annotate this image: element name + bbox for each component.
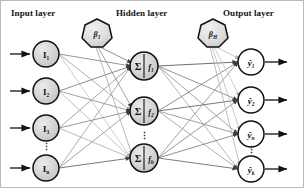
node-input-2[interactable]: I2: [33, 78, 59, 104]
node-hidden-2-sum: Σ: [135, 106, 142, 117]
node-input-3-sub: 3: [46, 129, 49, 135]
node-input-n-sub: n: [46, 169, 49, 175]
output-ellipsis-icon: ⋮: [247, 145, 256, 155]
bias-nodes: β1 βH: [82, 19, 228, 47]
node-bias-h-sub: H: [212, 34, 218, 40]
node-bias-1-sub: 1: [98, 34, 101, 40]
node-output-k-sub: k: [252, 170, 255, 176]
node-input-3[interactable]: I3: [33, 115, 59, 141]
node-input-1-sub: 1: [46, 55, 49, 61]
hidden-layer-nodes: Σ f1 Σ f2 ⋮ Σ fh: [130, 52, 158, 172]
node-output-n-sub: n: [252, 135, 255, 141]
node-input-1[interactable]: I1: [33, 41, 59, 67]
node-hidden-2-sub: 2: [150, 112, 154, 118]
node-output-1[interactable]: ŷ1: [238, 49, 264, 75]
node-output-2[interactable]: ŷ2: [238, 87, 264, 113]
node-hidden-h[interactable]: Σ fh: [130, 144, 158, 172]
node-hidden-1-sum: Σ: [135, 61, 142, 72]
node-output-1-sub: 1: [252, 63, 255, 69]
edges-hidden-to-output: [158, 62, 238, 169]
node-output-2-sub: 2: [251, 101, 255, 107]
node-hidden-h-sub: h: [151, 159, 154, 165]
node-hidden-1[interactable]: Σ f1: [130, 52, 158, 80]
neural-network-diagram: Input layer Hidden layer Output layer: [0, 0, 304, 188]
input-layer-nodes: I1 I2 I3 ⋮ In: [33, 41, 59, 181]
node-bias-1[interactable]: β1: [82, 19, 112, 47]
input-ellipsis-icon: ⋮: [42, 142, 51, 152]
network-canvas: I1 I2 I3 ⋮ In: [1, 1, 304, 188]
node-bias-h[interactable]: βH: [198, 19, 228, 47]
node-output-n[interactable]: ŷn: [238, 121, 264, 147]
node-output-k[interactable]: ŷk: [238, 156, 264, 182]
node-hidden-2[interactable]: Σ f2: [130, 97, 158, 125]
node-input-n[interactable]: In: [33, 155, 59, 181]
node-input-2-sub: 2: [46, 92, 49, 98]
output-layer-nodes: ŷ1 ŷ2 ŷn ⋮ ŷk: [238, 49, 264, 182]
node-hidden-h-sum: Σ: [135, 153, 142, 164]
input-feed-arrows: [10, 54, 30, 168]
node-hidden-1-sub: 1: [151, 67, 154, 73]
hidden-ellipsis-icon: ⋮: [140, 131, 149, 141]
output-feed-arrows: [265, 62, 287, 169]
edges-input-to-hidden: [59, 54, 131, 168]
